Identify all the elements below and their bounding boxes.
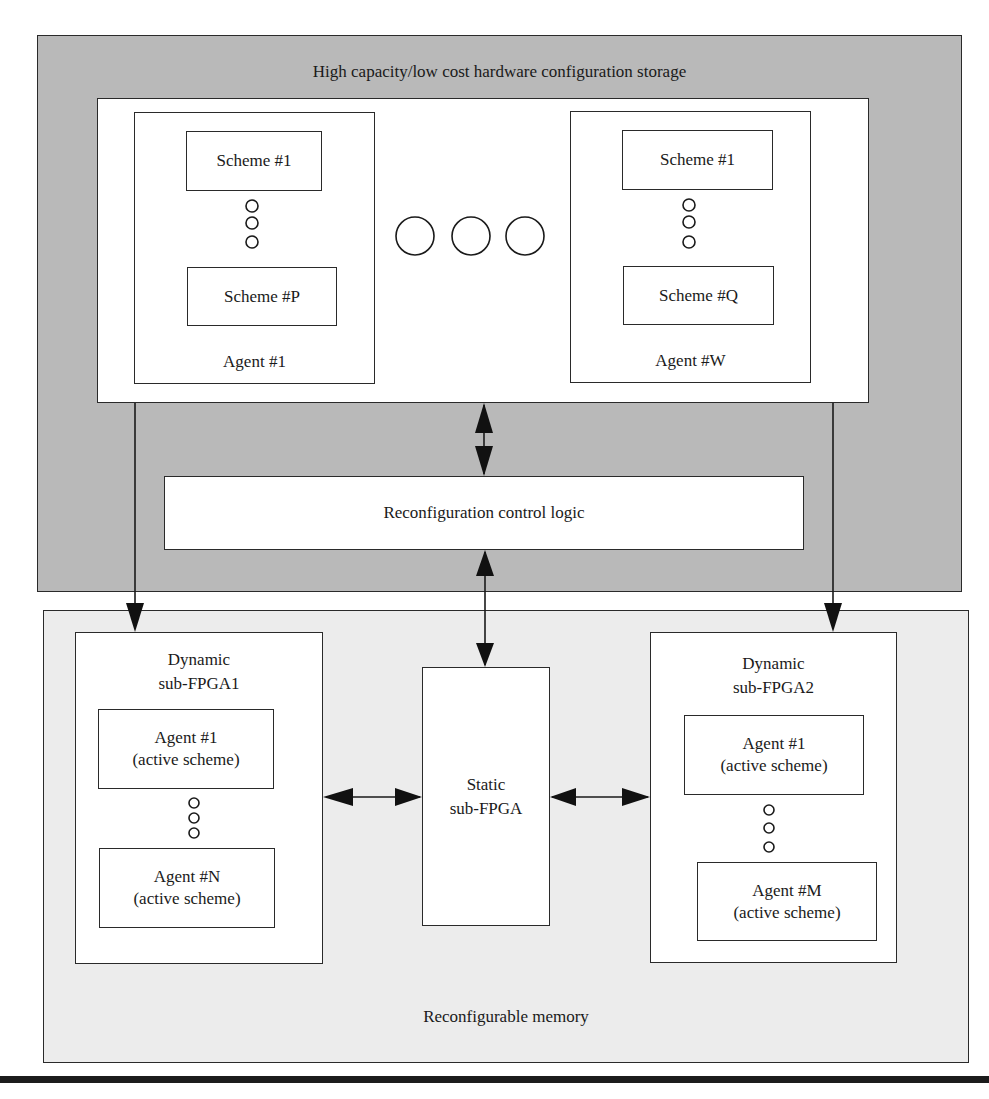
ellipsis-dot-icon xyxy=(189,813,199,823)
ellipsis-dot-icon xyxy=(683,199,695,211)
arrow-right-icon xyxy=(622,788,650,806)
ellipsis-dot-icon xyxy=(246,200,258,212)
ellipsis-dot-icon xyxy=(764,823,774,833)
arrow-left-icon xyxy=(323,788,353,806)
ellipsis-dot-icon xyxy=(683,216,695,228)
ellipsis-dot-icon xyxy=(683,236,695,248)
ellipsis-circle-icon xyxy=(396,217,434,255)
ellipsis-circle-icon xyxy=(452,217,490,255)
arrow-down-icon xyxy=(126,603,144,632)
connectors-layer xyxy=(0,0,989,1099)
ellipsis-dot-icon xyxy=(189,828,199,838)
arrow-down-icon xyxy=(824,603,842,632)
ellipsis-circle-icon xyxy=(506,217,544,255)
arrow-left-icon xyxy=(550,788,576,806)
ellipsis-dot-icon xyxy=(246,236,258,248)
arrow-up-icon xyxy=(475,403,493,433)
ellipsis-dot-icon xyxy=(764,805,774,815)
ellipsis-dot-icon xyxy=(246,217,258,229)
ellipsis-dot-icon xyxy=(764,842,774,852)
figure-bottom-rule xyxy=(0,1076,989,1083)
arrow-up-icon xyxy=(476,550,494,576)
ellipsis-dot-icon xyxy=(189,798,199,808)
arrow-down-icon xyxy=(476,643,494,667)
arrow-right-icon xyxy=(395,788,422,806)
arrow-down-icon xyxy=(475,446,493,476)
